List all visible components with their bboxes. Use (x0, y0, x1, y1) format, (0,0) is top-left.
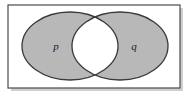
venn-diagram-figure: p q (0, 0, 190, 99)
set-q-label: q (131, 40, 137, 52)
set-p-label: p (52, 40, 59, 52)
venn-diagram-canvas: p q (0, 0, 190, 99)
